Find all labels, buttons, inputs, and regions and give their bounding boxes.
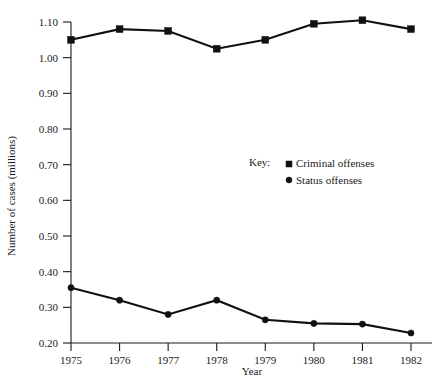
x-tick-label: 1982 [400,354,422,366]
data-point-marker [68,36,75,43]
data-point-marker [262,36,269,43]
data-point-marker [310,20,317,27]
y-tick-label: 0.90 [39,87,59,99]
y-tick-label: 0.70 [39,159,59,171]
data-point-marker [359,17,366,24]
x-tick-label: 1981 [351,354,373,366]
data-point-marker [165,311,171,317]
y-tick-label: 0.60 [39,194,59,206]
data-point-marker [311,320,317,326]
chart-background [0,0,444,390]
line-chart: 1.101.000.900.800.700.600.500.400.300.20… [0,0,444,390]
y-axis-title: Number of cases (millions) [5,136,18,256]
y-tick-label: 0.30 [39,301,59,313]
x-tick-label: 1976 [109,354,132,366]
y-tick-label: 0.20 [39,337,59,349]
y-tick-label: 0.50 [39,230,59,242]
y-tick-label: 1.00 [39,52,59,64]
data-point-marker [262,317,268,323]
data-point-marker [116,297,122,303]
data-point-marker [408,330,414,336]
y-tick-label: 1.10 [39,16,59,28]
legend-label-status-offenses: Status offenses [296,174,362,186]
y-tick-label: 0.40 [39,266,59,278]
data-point-marker [116,26,123,33]
data-point-marker [359,321,365,327]
y-tick-label: 0.80 [39,123,59,135]
x-tick-label: 1980 [303,354,326,366]
x-tick-label: 1978 [206,354,229,366]
legend-marker-criminal-offenses [286,161,292,167]
data-point-marker [165,28,172,35]
data-point-marker [214,297,220,303]
x-tick-label: 1975 [60,354,83,366]
data-point-marker [213,45,220,52]
x-tick-label: 1977 [157,354,180,366]
data-point-marker [408,26,415,33]
chart-canvas: 1.101.000.900.800.700.600.500.400.300.20… [0,0,444,390]
legend-marker-status-offenses [286,177,292,183]
data-point-marker [68,285,74,291]
x-axis-title: Year [242,365,263,377]
legend-title: Key: [249,156,270,168]
legend-label-criminal-offenses: Criminal offenses [296,157,374,169]
